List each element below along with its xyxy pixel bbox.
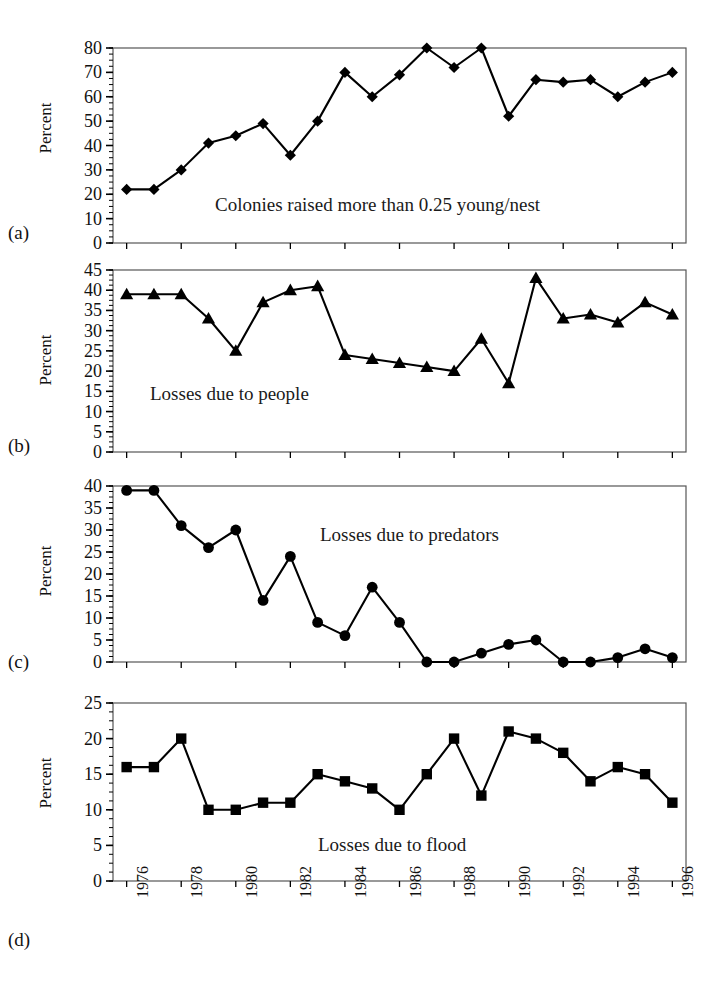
svg-text:0: 0 — [93, 652, 102, 672]
data-point — [121, 184, 132, 195]
data-point — [340, 776, 350, 786]
data-point — [585, 776, 595, 786]
x-tick-1984: 1984 — [352, 866, 370, 898]
svg-text:10: 10 — [84, 209, 102, 229]
data-point — [149, 485, 160, 496]
data-point — [558, 748, 568, 758]
panel-d-annotation: Losses due to flood — [318, 834, 467, 855]
svg-text:15: 15 — [84, 381, 102, 401]
svg-text:25: 25 — [84, 693, 102, 713]
data-point — [584, 308, 597, 320]
x-tick-1996: 1996 — [679, 866, 697, 898]
svg-text:25: 25 — [84, 542, 102, 562]
data-point — [367, 582, 378, 593]
data-point — [203, 805, 213, 815]
data-point — [230, 130, 241, 141]
svg-text:10: 10 — [84, 402, 102, 422]
data-point — [422, 769, 432, 779]
data-point — [176, 733, 186, 743]
data-point — [612, 91, 623, 102]
data-point — [176, 520, 187, 531]
x-tick-1980: 1980 — [243, 866, 261, 898]
data-point — [558, 77, 569, 88]
figure-four-panel-line-charts: (a) Percent 01020304050607080Colonies ra… — [0, 0, 720, 986]
svg-text:20: 20 — [84, 729, 102, 749]
x-tick-1990: 1990 — [516, 866, 534, 898]
data-point — [285, 551, 296, 562]
data-point — [531, 733, 541, 743]
x-tick-1988: 1988 — [461, 866, 479, 898]
x-tick-1986: 1986 — [407, 866, 425, 898]
data-point — [638, 296, 651, 308]
svg-text:80: 80 — [84, 38, 102, 58]
svg-text:0: 0 — [93, 442, 102, 462]
svg-text:50: 50 — [84, 111, 102, 131]
data-point — [203, 542, 214, 553]
data-point — [367, 783, 377, 793]
x-tick-1994: 1994 — [625, 866, 643, 898]
x-tick-1982: 1982 — [297, 866, 315, 898]
panel-b-annotation: Losses due to people — [150, 383, 309, 404]
data-point — [640, 643, 651, 654]
data-point — [149, 762, 159, 772]
svg-text:30: 30 — [84, 321, 102, 341]
data-point — [503, 639, 514, 650]
data-point — [529, 271, 542, 283]
svg-text:40: 40 — [84, 136, 102, 156]
data-point — [256, 296, 269, 308]
data-point — [311, 280, 324, 292]
data-point — [258, 595, 269, 606]
data-point — [503, 726, 513, 736]
data-point — [612, 652, 623, 663]
panel-d-plot: 0510152025Losses due to flood — [0, 681, 720, 896]
data-point — [531, 635, 542, 646]
svg-text:60: 60 — [84, 87, 102, 107]
data-point — [667, 652, 678, 663]
svg-text:5: 5 — [93, 835, 102, 855]
data-point — [121, 485, 132, 496]
panel-a-annotation: Colonies raised more than 0.25 young/nes… — [215, 194, 541, 215]
data-point — [231, 805, 241, 815]
svg-text:10: 10 — [84, 800, 102, 820]
data-point — [667, 797, 677, 807]
svg-text:15: 15 — [84, 764, 102, 784]
data-point — [558, 657, 569, 668]
data-point — [449, 733, 459, 743]
data-point — [476, 648, 487, 659]
panel-b-plot: 051015202530354045Losses due to people — [0, 252, 720, 466]
svg-text:5: 5 — [93, 422, 102, 442]
svg-text:35: 35 — [84, 498, 102, 518]
svg-text:25: 25 — [84, 341, 102, 361]
data-point — [121, 762, 131, 772]
x-tick-1978: 1978 — [188, 866, 206, 898]
panel-c-plot: 0510152025303540Losses due to predators — [0, 466, 720, 681]
x-tick-1976: 1976 — [134, 866, 152, 898]
data-point — [230, 525, 241, 536]
data-point — [421, 657, 432, 668]
data-point — [394, 805, 404, 815]
svg-text:15: 15 — [84, 586, 102, 606]
panel-c-annotation: Losses due to predators — [320, 524, 499, 545]
data-point — [338, 348, 351, 360]
svg-text:30: 30 — [84, 520, 102, 540]
svg-text:0: 0 — [93, 233, 102, 252]
data-point — [340, 630, 351, 641]
svg-text:35: 35 — [84, 300, 102, 320]
svg-text:20: 20 — [84, 184, 102, 204]
svg-text:20: 20 — [84, 361, 102, 381]
svg-text:20: 20 — [84, 564, 102, 584]
panel-b: (b) Percent 051015202530354045Losses due… — [0, 252, 720, 466]
data-point — [394, 617, 405, 628]
data-point — [585, 657, 596, 668]
data-point — [285, 797, 295, 807]
data-point — [666, 308, 679, 320]
data-point — [639, 77, 650, 88]
panel-d: (d) Percent 0510152025Losses due to floo… — [0, 681, 720, 896]
svg-text:0: 0 — [93, 871, 102, 891]
x-axis-tick-labels: 1976197819801982198419861988199019921994… — [0, 896, 720, 986]
data-point — [476, 790, 486, 800]
svg-text:70: 70 — [84, 62, 102, 82]
svg-text:10: 10 — [84, 608, 102, 628]
svg-text:30: 30 — [84, 160, 102, 180]
data-point — [502, 377, 515, 389]
